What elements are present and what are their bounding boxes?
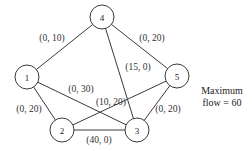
- node-label: 2: [60, 126, 65, 136]
- node-5: 5: [165, 64, 189, 88]
- edge-label-4-5: (0, 20): [139, 33, 164, 44]
- edge-label-5-3: (0, 20): [155, 104, 180, 115]
- node-3: 3: [125, 118, 149, 142]
- edge-4-3: [102, 17, 137, 130]
- edge-label-1-3: (0, 30): [68, 84, 93, 95]
- node-label: 1: [25, 73, 30, 83]
- edge-label-2-5: (10, 20): [96, 97, 126, 108]
- edge-label-1-4: (0, 10): [39, 33, 64, 44]
- node-4: 4: [90, 5, 114, 29]
- node-2: 2: [50, 118, 74, 142]
- edge-1-4: [27, 17, 102, 77]
- node-label: 4: [100, 13, 105, 23]
- edge-labels-layer: (0, 10)(0, 20)(15, 0)(0, 30)(10, 20)(0, …: [16, 33, 180, 146]
- node-1: 1: [15, 65, 39, 89]
- max-flow-label-line2: flow = 60: [203, 97, 242, 108]
- nodes-layer: 12345: [15, 5, 189, 142]
- edge-label-4-3: (15, 0): [125, 62, 150, 73]
- node-label: 3: [135, 126, 140, 136]
- flow-network-diagram: 12345 (0, 10)(0, 20)(15, 0)(0, 30)(10, 2…: [0, 0, 252, 151]
- edge-label-1-2: (0, 20): [16, 104, 41, 115]
- max-flow-label-line1: Maximum: [201, 85, 243, 96]
- edge-label-2-3: (40, 0): [86, 135, 111, 146]
- node-label: 5: [175, 72, 180, 82]
